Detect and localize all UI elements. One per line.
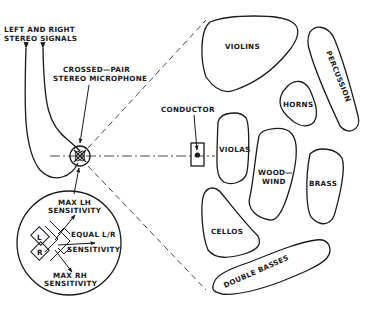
violas-label: VIOLAS	[219, 145, 250, 154]
sensitivity-inset: L R MAX LH SENSITIVITY EQUAL L/R SENSITI…	[17, 191, 121, 295]
equal-line2: SENSITIVITY	[67, 245, 121, 254]
orchestra-sections: VIOLINS PERCUSSION HORNS VIOLAS WOOD— WI…	[202, 16, 359, 294]
violins-section	[202, 16, 298, 91]
max-rh-line2: SENSITIVITY	[44, 279, 98, 288]
mic-label-line1: CROSSED—PAIR	[63, 65, 130, 74]
conductor-pointer	[194, 115, 197, 150]
signals-label-line1: LEFT AND RIGHT	[4, 25, 75, 34]
conductor: CONDUCTOR	[161, 105, 215, 166]
capsule-l-label: L	[37, 233, 42, 242]
horns-label: HORNS	[283, 100, 313, 109]
orchestra-stereo-mic-diagram: LEFT AND RIGHT STEREO SIGNALS CROSSED—PA…	[0, 0, 375, 312]
right-signal-cable	[43, 48, 80, 151]
woodwind-label-line1: WOOD—	[258, 168, 293, 177]
pickup-boundary-upper	[88, 20, 206, 148]
max-lh-line2: SENSITIVITY	[48, 206, 102, 215]
conductor-dot	[195, 152, 200, 157]
inset-pointer	[74, 168, 79, 194]
conductor-label: CONDUCTOR	[161, 105, 215, 114]
signals-label-line2: STEREO SIGNALS	[4, 34, 77, 43]
woodwind-label-line2: WIND	[262, 177, 286, 186]
pickup-boundary-lower	[88, 166, 206, 290]
mic-label-pointer	[80, 85, 89, 143]
mic-label-line2: STEREO MICROPHONE	[53, 74, 147, 83]
equal-line1: EQUAL L/R	[71, 230, 116, 239]
cellos-label: CELLOS	[211, 227, 243, 236]
brass-label: BRASS	[309, 179, 337, 188]
capsule-r-label: R	[37, 248, 43, 257]
capsule-outline	[45, 221, 70, 261]
violins-label: VIOLINS	[225, 42, 260, 51]
